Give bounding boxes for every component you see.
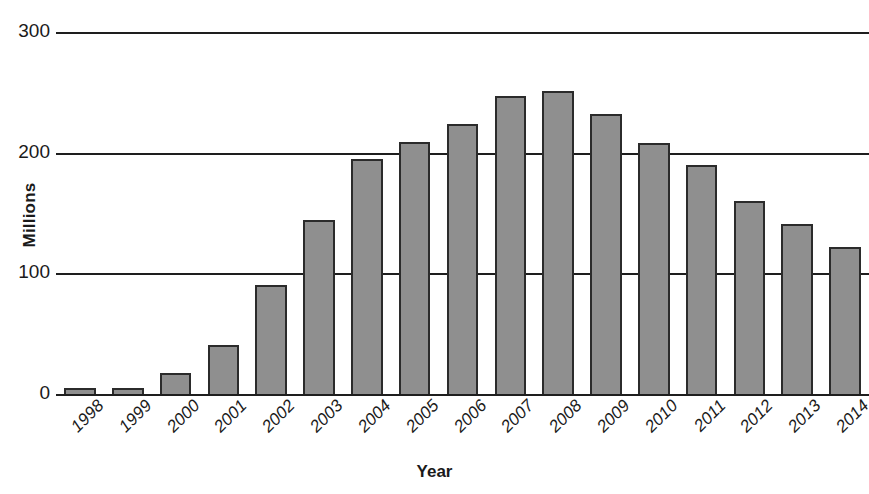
bar-2002 <box>255 285 287 394</box>
bar-2004 <box>351 159 383 394</box>
bar-2011 <box>686 165 718 394</box>
y-tick-label-100: 100 <box>4 262 50 281</box>
x-tick-label-2003: 2003 <box>291 396 348 453</box>
y-tick-label-300: 300 <box>4 21 50 40</box>
x-tick-label-2010: 2010 <box>625 396 682 453</box>
y-axis-tick-labels: 0100200300 <box>0 0 50 494</box>
x-tick-label-1999: 1999 <box>99 396 156 453</box>
bar-2008 <box>542 91 574 394</box>
x-tick-label-1998: 1998 <box>51 396 108 453</box>
plot-area <box>56 0 869 400</box>
x-tick-label-2011: 2011 <box>673 396 730 453</box>
x-axis-title: Year <box>0 462 869 482</box>
bar-series <box>56 0 869 400</box>
bar-2010 <box>638 143 670 394</box>
x-tick-label-2005: 2005 <box>386 396 443 453</box>
x-tick-label-2006: 2006 <box>434 396 491 453</box>
x-tick-label-2008: 2008 <box>530 396 587 453</box>
x-tick-label-2009: 2009 <box>578 396 635 453</box>
bar-2012 <box>734 201 766 394</box>
x-tick-label-2001: 2001 <box>195 396 252 453</box>
bar-2003 <box>303 220 335 394</box>
x-tick-label-2013: 2013 <box>769 396 826 453</box>
x-tick-label-2002: 2002 <box>243 396 300 453</box>
x-tick-label-2012: 2012 <box>721 396 778 453</box>
y-tick-label-0: 0 <box>4 383 50 402</box>
x-tick-label-2000: 2000 <box>147 396 204 453</box>
bar-2006 <box>447 124 479 394</box>
bar-2007 <box>495 96 527 394</box>
bar-2001 <box>208 345 240 394</box>
x-tick-label-2004: 2004 <box>338 396 395 453</box>
bar-2013 <box>781 224 813 394</box>
bar-2000 <box>160 373 192 394</box>
y-tick-label-200: 200 <box>4 142 50 161</box>
x-tick-label-2014: 2014 <box>817 396 869 453</box>
x-axis-tick-labels: 1998199920002001200220032004200520062007… <box>56 396 869 456</box>
bar-2005 <box>399 142 431 394</box>
x-tick-label-2007: 2007 <box>482 396 539 453</box>
bar-chart: Millions 0100200300 19981999200020012002… <box>0 0 869 494</box>
bar-2009 <box>590 114 622 394</box>
bar-2014 <box>829 247 861 394</box>
